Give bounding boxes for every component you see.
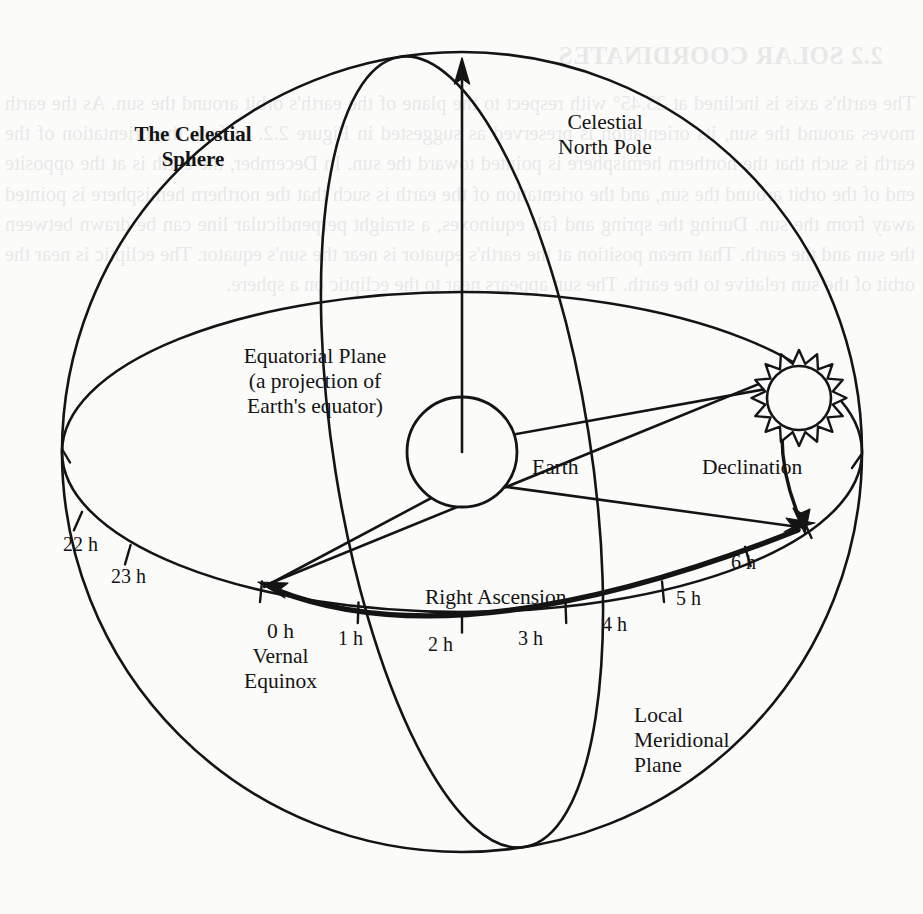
label-right-ascension: Right Ascension: [425, 585, 567, 610]
label-celestial-sphere: The Celestial Sphere: [88, 122, 298, 171]
hour-label: 6 h: [731, 551, 756, 574]
hour-label: 22 h: [63, 533, 98, 556]
earth-to-vernal-equinox-line: [264, 487, 452, 587]
sun-disc: [767, 366, 831, 430]
figure-page: 2.2 SOLAR COORDINATES The earth's axis i…: [0, 0, 923, 914]
label-equatorial-plane: Equatorial Plane (a projection of Earth'…: [185, 344, 445, 419]
label-declination: Declination: [702, 455, 802, 480]
label-local-meridional-plane: Local Meridional Plane: [634, 703, 730, 778]
hour-label: 3 h: [518, 627, 543, 650]
hour-tick-22h: [74, 512, 82, 531]
label-celestial-north-pole: Celestial North Pole: [490, 110, 720, 160]
hour-label: 23 h: [111, 565, 146, 588]
hour-label: 4 h: [602, 613, 627, 636]
earth-to-6h-line: [478, 483, 806, 528]
hour-label: 2 h: [428, 633, 453, 656]
hour-tick-4h: [662, 581, 664, 602]
hour-tick-23h: [125, 545, 131, 564]
sun-symbol: [752, 350, 847, 446]
hour-label: 5 h: [676, 587, 701, 610]
hour-label: 1 h: [338, 627, 363, 650]
label-earth: Earth: [532, 455, 579, 480]
